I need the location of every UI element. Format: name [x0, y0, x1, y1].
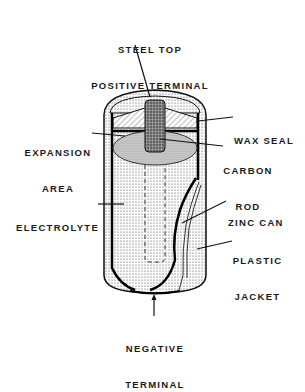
- label-negative-terminal: NEGATIVE TERMINAL: [110, 319, 200, 392]
- label-line: JACKET: [230, 291, 285, 303]
- label-plastic-jacket: PLASTIC JACKET: [230, 231, 285, 315]
- label-line: ELECTROLYTE: [16, 222, 99, 234]
- label-steel-top: STEEL TOP POSITIVE TERMINAL: [75, 20, 225, 104]
- carbon-rod: [145, 100, 165, 152]
- label-line: AREA: [22, 183, 94, 195]
- label-line: POSITIVE TERMINAL: [75, 80, 225, 92]
- label-line: PLASTIC: [230, 255, 285, 267]
- label-electrolyte: ELECTROLYTE: [16, 198, 99, 246]
- label-line: TERMINAL: [110, 379, 200, 391]
- label-line: ZINC CAN: [228, 217, 284, 229]
- label-line: EXPANSION: [22, 147, 94, 159]
- label-line: STEEL TOP: [75, 44, 225, 56]
- label-line: NEGATIVE: [110, 343, 200, 355]
- label-expansion-area: EXPANSION AREA: [22, 123, 94, 207]
- label-line: CARBON: [222, 165, 274, 177]
